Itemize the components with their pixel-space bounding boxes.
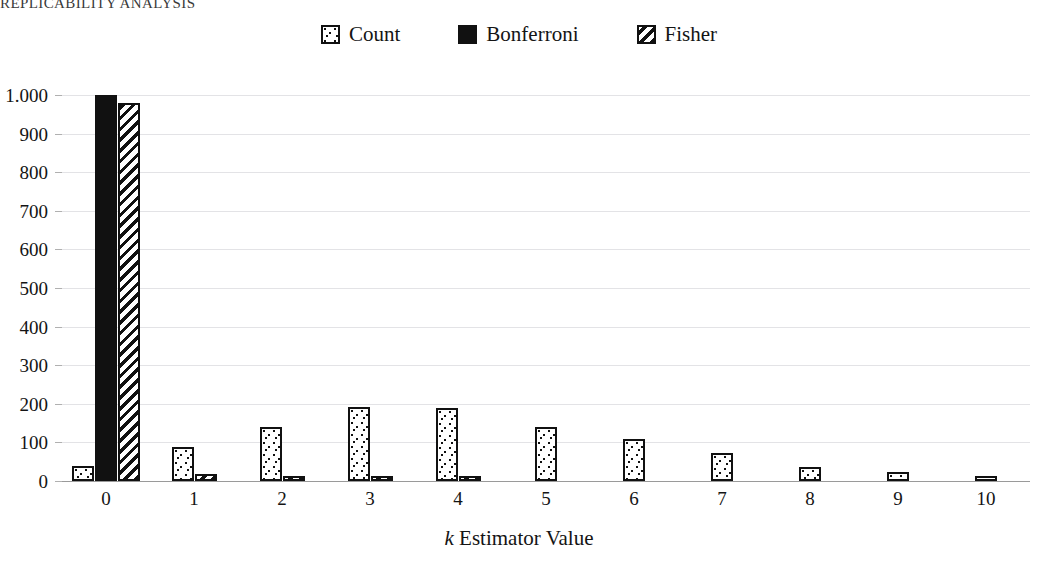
y-axis-tick-label: 900 — [20, 124, 49, 143]
y-axis-tick-label: 800 — [20, 163, 49, 182]
bar-count-0 — [72, 466, 94, 481]
bar-count-5 — [535, 427, 557, 481]
bar-group — [238, 95, 326, 481]
x-axis-tick-label: 10 — [977, 489, 996, 508]
x-axis-tick-label: 9 — [893, 489, 903, 508]
x-axis-tick-label: 3 — [365, 489, 375, 508]
bar-group — [414, 95, 502, 481]
y-axis-tick-mark — [55, 134, 62, 135]
y-axis-tick-label: 300 — [20, 356, 49, 375]
x-axis-title-variable: k — [445, 526, 454, 550]
x-axis-tick-label: 7 — [717, 489, 727, 508]
legend-label-count: Count — [349, 24, 400, 45]
bar-count-7 — [711, 453, 733, 481]
bar-chart: 01002003004005006007008009001.000 012345… — [0, 60, 1038, 573]
x-axis-tick-label: 6 — [629, 489, 639, 508]
y-axis-tick-mark — [55, 365, 62, 366]
x-axis-tick-label: 8 — [805, 489, 815, 508]
bar-group — [942, 95, 1030, 481]
y-axis-tick-mark — [55, 327, 62, 328]
bar-count-3 — [348, 407, 370, 481]
x-axis-title-rest: Estimator Value — [454, 526, 594, 550]
bar-fisher-0 — [118, 103, 140, 481]
y-axis-tick-label: 500 — [20, 279, 49, 298]
x-axis-tick-label: 1 — [189, 489, 199, 508]
dotted-square-icon — [321, 25, 340, 44]
bar-group — [678, 95, 766, 481]
y-axis-tick-label: 200 — [20, 394, 49, 413]
chart-legend: Count Bonferroni Fisher — [0, 24, 1038, 45]
legend-item-bonferroni: Bonferroni — [458, 24, 578, 45]
y-axis-tick-mark — [55, 481, 62, 482]
y-axis-tick-label: 100 — [20, 433, 49, 452]
y-axis-tick-mark — [55, 172, 62, 173]
bar-count-2 — [260, 427, 282, 481]
y-axis-tick-label: 0 — [39, 472, 49, 491]
bar-count-1 — [172, 447, 194, 481]
bar-group — [766, 95, 854, 481]
y-axis-tick-label: 400 — [20, 317, 49, 336]
bar-count-4 — [436, 408, 458, 481]
hatched-square-icon — [637, 25, 656, 44]
running-head: REPLICABILITY ANALYSIS — [0, 0, 196, 12]
bar-group — [502, 95, 590, 481]
bar-group — [62, 95, 150, 481]
bar-group — [590, 95, 678, 481]
bar-group — [854, 95, 942, 481]
x-axis-tick-label: 5 — [541, 489, 551, 508]
x-axis-ticks: 012345678910 — [62, 481, 1030, 511]
bar-bonferroni-0 — [95, 95, 117, 481]
y-axis-tick-mark — [55, 211, 62, 212]
y-axis-tick-mark — [55, 404, 62, 405]
legend-item-count: Count — [321, 24, 400, 45]
y-axis-tick-label: 700 — [20, 201, 49, 220]
x-axis-title: k Estimator Value — [0, 526, 1038, 551]
y-axis-tick-label: 600 — [20, 240, 49, 259]
bar-count-9 — [887, 472, 909, 481]
y-axis-tick-mark — [55, 249, 62, 250]
x-axis-tick-label: 4 — [453, 489, 463, 508]
bar-count-6 — [623, 439, 645, 481]
y-axis-tick-mark — [55, 288, 62, 289]
legend-item-fisher: Fisher — [637, 24, 718, 45]
legend-label-fisher: Fisher — [665, 24, 718, 45]
bar-group — [326, 95, 414, 481]
y-axis-tick-label: 1.000 — [5, 86, 48, 105]
legend-label-bonferroni: Bonferroni — [486, 24, 578, 45]
bar-count-8 — [799, 467, 821, 481]
x-axis-tick-label: 2 — [277, 489, 287, 508]
plot-area: 01002003004005006007008009001.000 — [62, 95, 1030, 481]
x-axis-tick-label: 0 — [101, 489, 111, 508]
y-axis-tick-mark — [55, 95, 62, 96]
filled-square-icon — [458, 25, 477, 44]
bar-group — [150, 95, 238, 481]
y-axis-tick-mark — [55, 442, 62, 443]
